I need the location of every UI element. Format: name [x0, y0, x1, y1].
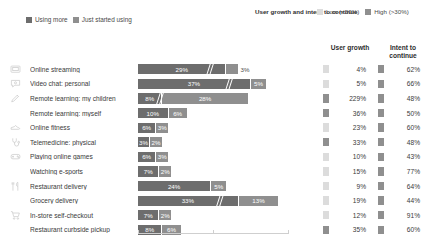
user-growth-value: 35% [329, 226, 378, 233]
bar-segment-using-more[interactable]: 3% [138, 137, 150, 147]
bar-segment-value: 3% [240, 66, 249, 73]
user-growth-value: 36% [329, 110, 378, 117]
bar-segment-just-started[interactable]: 2% [150, 137, 162, 147]
category-label: Online fitness [30, 124, 138, 131]
stacked-bar-cell: 37%5% [138, 77, 323, 92]
intent-value: 60% [384, 226, 432, 233]
legend-item-high: High (>30%) [365, 8, 409, 15]
stacked-bar[interactable]: 37%5% [138, 79, 266, 89]
bar-segment-using-more[interactable]: 37% [138, 79, 251, 89]
stacked-bar-cell: 7%2% [138, 164, 323, 179]
intent-value: 50% [384, 110, 432, 117]
series-legend: Using more Just started using [26, 16, 132, 23]
bar-segment-just-started[interactable]: 5% [251, 79, 266, 89]
bar-segment-just-started[interactable]: 2% [159, 166, 171, 176]
stacked-bar-cell: 29%3% [138, 62, 323, 77]
user-growth-cell: 10% [323, 153, 378, 161]
bar-segment-just-started[interactable]: 3% [156, 123, 168, 133]
user-growth-value: 9% [329, 183, 378, 190]
category-icon-cell [0, 64, 30, 75]
axis-tick [213, 230, 214, 234]
category-label: Remote learning: myself [30, 110, 138, 117]
category-icon-cell [0, 210, 30, 221]
intent-to-continue-cell: 64% [378, 182, 432, 190]
category-label: Playing online games [30, 153, 138, 160]
growth-intent-legend-title: User growth and intent to continue [255, 8, 311, 16]
stacked-bar-cell: 3%2% [138, 135, 323, 150]
user-growth-cell: 4% [323, 65, 378, 73]
bar-segment-just-started[interactable]: 28% [162, 93, 247, 103]
chart-row: Online fitness6%3%23%60% [0, 120, 432, 135]
stacked-bar[interactable]: 24%5% [138, 181, 226, 191]
user-growth-value: 12% [329, 212, 378, 219]
bar-segment-just-started[interactable]: 13% [239, 196, 279, 206]
intent-value: 77% [384, 168, 432, 175]
bar-segment-using-more[interactable]: 8% [138, 93, 162, 103]
user-growth-value: 4% [329, 66, 378, 73]
stacked-bar-cell: 7%2% [138, 208, 323, 223]
stacked-bar[interactable]: 29%3% [138, 64, 238, 74]
user-growth-value: 23% [329, 124, 378, 131]
axis-tick [288, 230, 289, 234]
user-growth-value: 5% [329, 80, 378, 87]
intent-to-continue-cell: 48% [378, 138, 432, 146]
user-growth-cell: 35% [323, 226, 378, 234]
chart-row: Restaurant delivery24%5%9%64% [0, 179, 432, 194]
user-growth-cell: 9% [323, 182, 378, 190]
user-growth-value: 10% [329, 153, 378, 160]
chart-row: Video chat: personal37%5%5%66% [0, 77, 432, 92]
bar-segment-just-started[interactable]: 5% [211, 181, 226, 191]
intent-value: 66% [384, 80, 432, 87]
shopping-cart-icon [10, 210, 21, 221]
bar-segment-using-more[interactable]: 33% [138, 196, 239, 206]
stacked-bar[interactable]: 7%2% [138, 166, 171, 176]
stacked-bar[interactable]: 3%2% [138, 137, 162, 147]
intent-to-continue-cell: 91% [378, 211, 432, 219]
user-growth-value: 33% [329, 139, 378, 146]
legend-label-just-started: Just started using [82, 16, 132, 23]
stacked-bar[interactable]: 33%13% [138, 196, 278, 206]
user-growth-cell: 19% [323, 196, 378, 204]
intent-to-continue-cell: 50% [378, 109, 432, 117]
stacked-bar[interactable]: 8%28% [138, 93, 248, 103]
intent-value: 48% [384, 95, 432, 102]
category-label: Restaurant delivery [30, 183, 138, 190]
category-icon-cell [0, 181, 30, 192]
bar-segment-just-started[interactable]: 6% [169, 108, 187, 118]
category-label: Restaurant curbside pickup [30, 226, 138, 233]
bar-segment-using-more[interactable]: 29% [138, 64, 226, 74]
chart-row: Online streaming29%3%4%62% [0, 62, 432, 77]
pencil-icon [10, 93, 21, 104]
bar-segment-using-more[interactable]: 6% [138, 152, 156, 162]
chart-row: Remote learning: myself10%6%36%50% [0, 106, 432, 121]
chart-row: Remote learning: my children8%28%229%48% [0, 91, 432, 106]
intent-to-continue-cell: 44% [378, 196, 432, 204]
bar-segment-just-started[interactable]: 3% [156, 152, 168, 162]
user-growth-cell: 229% [323, 94, 378, 102]
monitor-icon [10, 64, 21, 75]
stacked-bar[interactable]: 7%2% [138, 210, 171, 220]
legend-swatch-high [365, 9, 371, 15]
chart-row: Watching e-sports7%2%15%77% [0, 164, 432, 179]
user-growth-cell: 12% [323, 211, 378, 219]
category-label: Video chat: personal [30, 80, 138, 87]
bar-segment-just-started[interactable]: 2% [159, 210, 171, 220]
user-growth-cell: 5% [323, 80, 378, 88]
chart-row: Playing online games6%3%10%43% [0, 150, 432, 165]
category-icon-cell [0, 137, 30, 148]
bar-segment-using-more[interactable]: 6% [138, 123, 156, 133]
bar-segment-using-more[interactable]: 24% [138, 181, 211, 191]
stacked-bar[interactable]: 6%3% [138, 152, 168, 162]
bar-segment-using-more[interactable]: 10% [138, 108, 169, 118]
chart-row: Telemedicine: physical3%2%33%48% [0, 135, 432, 150]
bar-segment-using-more[interactable]: 7% [138, 210, 159, 220]
category-label: In-store self-checkout [30, 212, 138, 219]
chat-bubble-icon [10, 78, 21, 89]
stacked-bar-cell: 6%3% [138, 120, 323, 135]
intent-to-continue-cell: 77% [378, 167, 432, 175]
bar-segment-just-started[interactable]: 3% [226, 64, 238, 74]
bar-segment-using-more[interactable]: 7% [138, 166, 159, 176]
user-growth-value: 15% [329, 168, 378, 175]
stacked-bar[interactable]: 10%6% [138, 108, 187, 118]
stacked-bar[interactable]: 6%3% [138, 123, 168, 133]
